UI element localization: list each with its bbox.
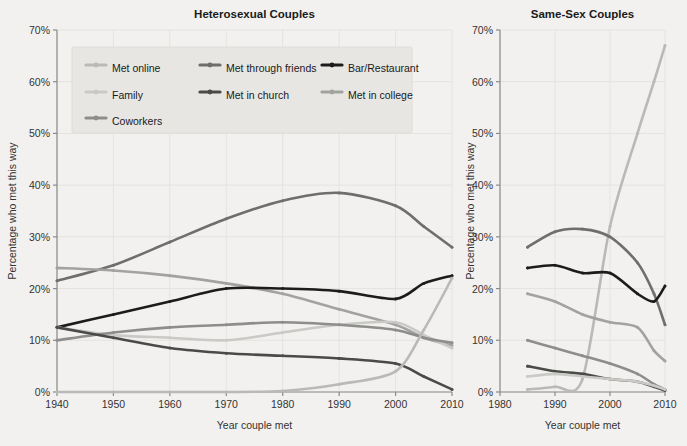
x-axis-title-heterosexual: Year couple met <box>217 419 293 431</box>
series-point <box>451 277 454 280</box>
legend-label-met-online: Met online <box>112 62 161 74</box>
series-point <box>664 323 667 326</box>
series-point <box>526 375 529 378</box>
legend-swatch-marker <box>94 90 99 95</box>
series-point <box>581 272 584 275</box>
series-point <box>422 225 425 228</box>
series-point <box>581 313 584 316</box>
series-point <box>554 347 557 350</box>
legend-label-family: Family <box>112 89 144 101</box>
series-point <box>225 391 228 394</box>
series-point <box>609 225 612 228</box>
series-point <box>636 261 639 264</box>
y-axis-title-heterosexual: Percentage who met this way <box>6 142 18 280</box>
y-tick-label: 60% <box>29 76 50 88</box>
series-point <box>636 132 639 135</box>
series-point <box>554 264 557 267</box>
y-tick-label: 10% <box>29 334 50 346</box>
series-point <box>56 391 59 394</box>
series-line-met-in-college <box>57 268 452 346</box>
series-point <box>581 375 584 378</box>
legend-swatch-marker <box>330 90 335 95</box>
y-tick-label: 70% <box>472 24 493 36</box>
series-point <box>653 384 656 387</box>
figure-root: Heterosexual Couples0%10%20%30%40%50%60%… <box>0 0 687 446</box>
series-point <box>168 241 171 244</box>
series-point <box>338 323 341 326</box>
chart-figure: Heterosexual Couples0%10%20%30%40%50%60%… <box>0 0 687 446</box>
series-point <box>338 357 341 360</box>
legend-swatch-marker <box>94 63 99 68</box>
series-point <box>168 347 171 350</box>
series-point <box>609 235 612 238</box>
x-tick-label: 1970 <box>215 398 239 410</box>
x-tick-label: 1990 <box>327 398 351 410</box>
x-tick-label: 2010 <box>653 398 677 410</box>
series-point <box>526 292 529 295</box>
x-tick-label: 1960 <box>158 398 182 410</box>
series-point <box>554 300 557 303</box>
y-tick-label: 40% <box>29 179 50 191</box>
series-point <box>554 230 557 233</box>
series-line-met-online <box>528 46 666 392</box>
legend-label-met-through-friends: Met through friends <box>226 62 316 74</box>
series-point <box>422 336 425 339</box>
y-tick-label: 10% <box>472 334 493 346</box>
y-tick-label: 70% <box>29 24 50 36</box>
series-point <box>168 300 171 303</box>
series-point <box>581 372 584 375</box>
series-point <box>422 375 425 378</box>
series-point <box>56 279 59 282</box>
series-point <box>451 341 454 344</box>
y-tick-label: 20% <box>29 283 50 295</box>
series-point <box>653 300 656 303</box>
x-tick-label: 1990 <box>543 398 567 410</box>
series-point <box>451 274 454 277</box>
series-point <box>609 272 612 275</box>
series-point <box>394 321 397 324</box>
panel-title-samesex: Same-Sex Couples <box>531 8 635 20</box>
series-point <box>112 313 115 316</box>
series-line-family <box>57 322 452 348</box>
series-point <box>394 328 397 331</box>
series-point <box>225 282 228 285</box>
series-point <box>636 380 639 383</box>
series-point <box>225 287 228 290</box>
x-tick-label: 2010 <box>440 398 464 410</box>
series-point <box>56 339 59 342</box>
series-point <box>168 274 171 277</box>
y-tick-label: 30% <box>29 231 50 243</box>
y-tick-label: 0% <box>35 386 50 398</box>
series-point <box>581 354 584 357</box>
series-point <box>664 388 667 391</box>
legend-swatch-marker <box>208 63 213 68</box>
series-point <box>225 217 228 220</box>
series-point <box>394 370 397 373</box>
series-point <box>653 349 656 352</box>
series-point <box>664 284 667 287</box>
x-tick-label: 1980 <box>271 398 295 410</box>
legend-label-bar-restaurant: Bar/Restaurant <box>348 62 419 74</box>
legend-label-met-in-college: Met in college <box>348 89 413 101</box>
series-line-bar-restaurant <box>528 265 666 301</box>
y-tick-label: 50% <box>472 127 493 139</box>
series-point <box>653 80 656 83</box>
series-point <box>281 354 284 357</box>
series-point <box>225 352 228 355</box>
series-point <box>56 266 59 269</box>
series-point <box>168 336 171 339</box>
series-point <box>526 388 529 391</box>
series-point <box>526 339 529 342</box>
series-point <box>112 336 115 339</box>
series-point <box>636 372 639 375</box>
series-point <box>664 44 667 47</box>
y-tick-label: 20% <box>472 283 493 295</box>
series-point <box>56 326 59 329</box>
series-point <box>281 292 284 295</box>
legend-label-met-in-church: Met in church <box>226 89 289 101</box>
series-point <box>168 326 171 329</box>
legend-swatch-marker <box>94 116 99 121</box>
series-point <box>636 326 639 329</box>
series-point <box>281 287 284 290</box>
series-point <box>451 388 454 391</box>
